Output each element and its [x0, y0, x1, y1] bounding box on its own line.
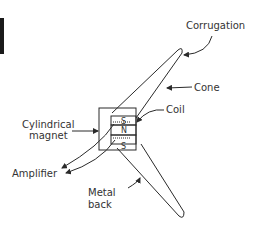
pole-top: S	[121, 117, 126, 126]
label-coil: Coil	[166, 104, 185, 115]
label-back-line1: Metal	[88, 187, 116, 198]
label-cone: Cone	[194, 82, 220, 93]
label-magnet-line1: Cylindrical	[22, 119, 74, 130]
loudspeaker-diagram: S N S	[0, 0, 259, 234]
cone-lower	[117, 144, 184, 217]
pole-bottom: S	[121, 142, 126, 151]
pole-middle: N	[121, 126, 127, 135]
label-amplifier: Amplifier	[12, 168, 57, 179]
label-corrugation: Corrugation	[186, 20, 245, 31]
label-back-line2: back	[88, 199, 112, 210]
label-magnet-line2: magnet	[29, 130, 68, 141]
